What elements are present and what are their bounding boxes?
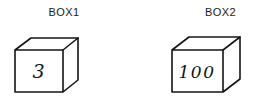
box-value-2: 100 xyxy=(179,62,216,82)
diagram-canvas: BOX1 3 BOX2 100 xyxy=(0,0,257,108)
cube-drawing-1: 3 xyxy=(0,28,128,108)
box-item-2: BOX2 100 xyxy=(160,0,257,108)
box-label-2: BOX2 xyxy=(160,6,257,19)
box-label-1: BOX1 xyxy=(0,6,128,19)
box-item-1: BOX1 3 xyxy=(0,0,128,108)
box-value-1: 3 xyxy=(32,60,45,82)
cube-drawing-2: 100 xyxy=(160,28,257,108)
